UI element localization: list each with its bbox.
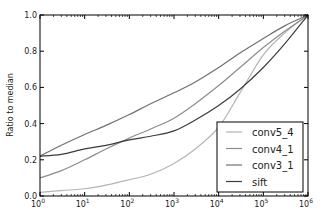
x-tick-label: 106 xyxy=(299,197,313,209)
y-axis-title: Ratio to median xyxy=(6,73,15,137)
x-tick-label: 104 xyxy=(210,197,224,209)
y-tick-label: 0.2 xyxy=(24,156,37,165)
legend: conv5_4conv4_1conv3_1sift xyxy=(217,122,303,192)
x-tick-label: 103 xyxy=(165,197,179,209)
y-tick-label: 1.0 xyxy=(24,11,37,20)
x-tick-label: 102 xyxy=(120,197,134,209)
line-chart: 100101102103104105106 0.00.20.40.60.81.0… xyxy=(0,0,327,221)
y-tick-label: 0.4 xyxy=(24,120,37,129)
legend-label-sift: sift xyxy=(252,177,267,188)
y-tick-label: 0.8 xyxy=(24,47,37,56)
x-tick-label: 105 xyxy=(254,197,268,209)
legend-label-conv3-1: conv3_1 xyxy=(252,160,294,172)
legend-label-conv5-4: conv5_4 xyxy=(252,127,294,139)
legend-label-conv4-1: conv4_1 xyxy=(252,144,294,156)
y-tick-label: 0.6 xyxy=(24,83,37,92)
y-tick-label: 0.0 xyxy=(24,192,37,201)
x-tick-label: 101 xyxy=(76,197,90,209)
